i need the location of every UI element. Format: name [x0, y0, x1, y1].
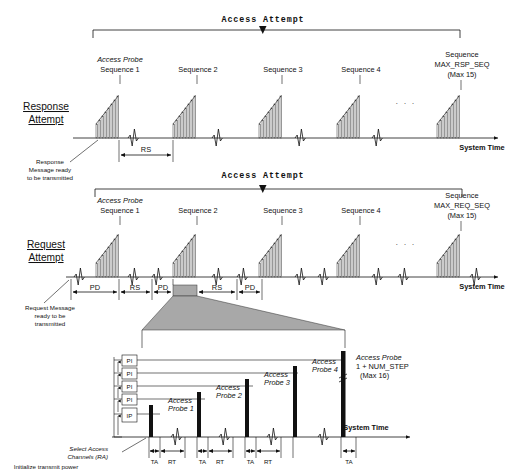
select-access-channels-note-line1: Select Access: [69, 445, 108, 452]
detail-rt-label-2: RT: [216, 458, 224, 465]
access-probe-label-2-line2: Probe 2: [216, 391, 242, 400]
request-callout-line2: ready to be: [35, 312, 67, 319]
initial-power-label: IP: [127, 412, 133, 419]
response-callout-line3: to be transmitted: [27, 174, 74, 181]
response-ellipsis: . . .: [396, 97, 416, 106]
last-probe-label-line3: (Max 16): [360, 371, 389, 380]
last-probe-label-line1: Access Probe: [355, 353, 402, 362]
power-increment-label-4: PI: [127, 396, 133, 403]
response-system-time-label: System Time: [459, 143, 504, 152]
request-sequence-3-label: Sequence 3: [263, 206, 302, 215]
select-access-channels-note-line2: Channels (RA): [67, 453, 108, 460]
power-increment-label-1: PI: [127, 357, 133, 364]
response-last-sequence-line1: Sequence: [445, 50, 478, 59]
detail-system-time-label: System Time: [343, 423, 388, 432]
request-ellipsis: . . .: [396, 238, 416, 247]
request-last-sequence-line2: MAX_REQ_SEQ: [434, 201, 490, 210]
request-rs-label-2: RS: [212, 283, 222, 292]
access-probe-label-3-line2: Probe 3: [264, 378, 291, 387]
response-last-sequence-line3: (Max 15): [447, 70, 476, 79]
access-probe-sequence-detail: System Time PI PI PI PI IP: [14, 351, 410, 470]
power-increment-label-2: PI: [127, 370, 133, 377]
request-rs-label-1: RS: [130, 283, 140, 292]
detail-notes: Select Access Channels (RA) Initialize t…: [14, 438, 146, 470]
request-sequence-4-label: Sequence 4: [341, 206, 380, 215]
response-sequence-2-label: Sequence 2: [178, 65, 217, 74]
access-probe-bar-last: [341, 351, 346, 437]
response-callout-line1: Response: [36, 158, 64, 165]
request-message-callout: Request Message ready to be transmitted: [25, 280, 75, 327]
detail-interval-labels: TA RT TA RT TA RT TA: [149, 437, 356, 465]
initialize-transmit-power-note: Initialize transmit power: [14, 463, 79, 470]
access-probe-bar-2: [197, 392, 201, 437]
response-attempt-label-line2: Attempt: [28, 114, 63, 125]
power-increment-ladder: PI PI PI PI IP: [114, 355, 137, 437]
request-last-sequence-line3: (Max 15): [447, 211, 476, 220]
response-message-callout: Response Message ready to be transmitted: [27, 140, 98, 181]
response-last-sequence-line2: MAX_RSP_SEQ: [434, 60, 489, 69]
detail-rt-label-1: RT: [168, 458, 176, 465]
response-attempt-row: Response Attempt System Time Access Prob…: [23, 50, 505, 181]
access-attempt-bracket-top: [93, 26, 460, 38]
request-last-sequence-line1: Sequence: [445, 191, 478, 200]
response-sequence-3-label: Sequence 3: [263, 65, 302, 74]
request-pd-label-3: PD: [245, 283, 255, 292]
request-pd-label-2: PD: [158, 283, 168, 292]
request-sequence-2-label: Sequence 2: [178, 206, 217, 215]
response-attempt-label-line1: Response: [23, 101, 69, 112]
detail-ta-label-1: TA: [151, 458, 159, 465]
request-access-probe-tag: Access Probe: [96, 196, 143, 205]
request-attempt-label-line2: Attempt: [28, 252, 63, 263]
access-attempt-title-top: Access Attempt: [222, 15, 305, 25]
detail-ta-label-2: TA: [199, 458, 207, 465]
access-probe-label-4-line2: Probe 4: [312, 365, 338, 374]
request-callout-line1: Request Message: [25, 304, 75, 311]
request-pd-label-1: PD: [90, 283, 100, 292]
access-attempt-bracket-mid: [95, 185, 462, 197]
detail-rt-label-3: RT: [264, 458, 272, 465]
zoom-source-block: [173, 285, 197, 296]
detail-ta-label-4: TA: [345, 458, 353, 465]
access-probe-bar-3: [245, 379, 249, 437]
response-rs-interval: RS: [119, 140, 173, 162]
response-access-probe-tag: Access Probe: [96, 55, 143, 64]
detail-ta-label-3: TA: [247, 458, 255, 465]
zoom-funnel: [142, 296, 345, 330]
request-attempt-label-line1: Request: [27, 239, 65, 250]
response-sequence-4-label: Sequence 4: [341, 65, 380, 74]
access-attempt-title-mid: Access Attempt: [222, 171, 305, 181]
request-interval-labels: PD RS PD RS PD: [71, 279, 262, 300]
request-system-time-label: System Time: [459, 282, 504, 291]
last-probe-label-line2: 1 + NUM_STEP: [356, 362, 409, 371]
diagram-canvas: Access Attempt Response Attempt System T…: [0, 0, 526, 471]
response-callout-line2: Message ready: [29, 166, 72, 173]
request-attempt-row: Request Attempt System Time Access Probe…: [25, 191, 505, 327]
access-probe-bar-1: [149, 405, 153, 437]
power-increment-label-3: PI: [127, 383, 133, 390]
access-attempt-timing-diagram: Access Attempt Response Attempt System T…: [0, 0, 526, 471]
response-rs-label: RS: [141, 145, 151, 154]
request-sequence-1-label: Sequence 1: [100, 206, 139, 215]
response-sequence-1-label: Sequence 1: [100, 65, 139, 74]
access-probe-label-1-line2: Probe 1: [168, 404, 194, 413]
request-callout-line3: transmitted: [35, 320, 66, 327]
access-probe-bar-4: [293, 366, 297, 437]
